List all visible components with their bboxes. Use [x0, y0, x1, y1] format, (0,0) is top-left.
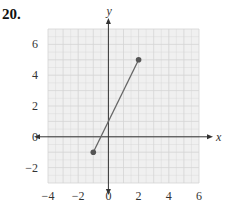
y-axis-arrow-icon [106, 18, 111, 24]
y-tick-label: 4 [32, 68, 38, 82]
endpoint-marker [136, 57, 142, 63]
x-tick-label: 0 [105, 189, 111, 203]
x-tick-label: 4 [166, 189, 172, 203]
y-tick-label: 6 [32, 37, 38, 51]
x-tick-label: 6 [196, 189, 202, 203]
x-tick-label: −4 [42, 189, 55, 203]
x-axis-arrow-icon [207, 134, 213, 139]
x-tick-label: 2 [136, 189, 142, 203]
x-axis-label: x [215, 130, 222, 144]
y-tick-label: 0 [32, 130, 38, 144]
x-tick-label: −2 [72, 189, 85, 203]
coordinate-plane: xy−4−202466420−2 [0, 0, 228, 212]
y-tick-label: 2 [32, 99, 38, 113]
y-axis-label: y [105, 4, 112, 18]
y-tick-label: −2 [25, 161, 38, 175]
endpoint-marker [91, 149, 97, 155]
